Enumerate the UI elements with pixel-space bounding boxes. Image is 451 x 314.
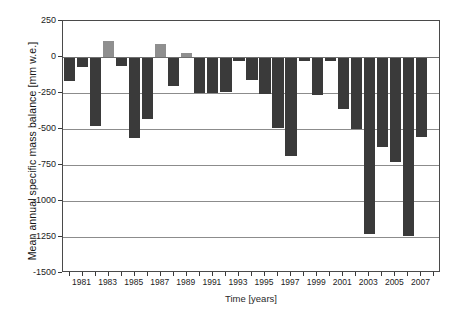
mass-balance-bar-chart: Mean annual specific mass balance [mm w.… [0, 0, 451, 314]
bar-2002 [351, 57, 362, 129]
x-axis-tick [121, 272, 122, 276]
y-gridline [63, 201, 439, 202]
x-axis-tick-label: 2007 [411, 277, 430, 287]
x-axis-tick [95, 272, 96, 276]
bar-1990 [194, 57, 205, 93]
zero-line [63, 57, 439, 58]
x-axis-tick [316, 272, 317, 276]
x-axis-tick [108, 272, 109, 276]
y-axis-tick [58, 272, 62, 273]
bar-1992 [220, 57, 231, 92]
x-axis-tick [355, 272, 356, 276]
y-axis-tick [58, 200, 62, 201]
x-axis-tick [329, 272, 330, 276]
x-axis-tick [160, 272, 161, 276]
bar-1985 [129, 57, 140, 138]
bar-1991 [207, 57, 218, 93]
x-axis-tick [134, 272, 135, 276]
y-axis-tick-label: -1000 [10, 195, 56, 205]
bar-1994 [246, 57, 257, 80]
bar-1999 [312, 57, 323, 95]
bar-2007 [416, 57, 427, 137]
x-axis-tick-label: 2005 [385, 277, 404, 287]
y-axis-tick-label: -500 [10, 123, 56, 133]
bar-1987 [155, 44, 166, 57]
bar-1988 [168, 57, 179, 86]
x-axis-tick [420, 272, 421, 276]
y-axis-tick-label: -1500 [10, 267, 56, 277]
x-axis-tick-label: 2001 [333, 277, 352, 287]
bar-1996 [272, 57, 283, 128]
x-axis-tick [199, 272, 200, 276]
y-axis-tick [58, 20, 62, 21]
x-axis-title: Time [years] [62, 293, 440, 304]
bar-1984 [116, 57, 127, 66]
y-axis-tick [58, 56, 62, 57]
bar-2003 [364, 57, 375, 234]
x-axis-tick-label: 1991 [202, 277, 221, 287]
x-axis-tick [225, 272, 226, 276]
x-axis-tick [238, 272, 239, 276]
bar-2001 [338, 57, 349, 109]
x-axis-tick [368, 272, 369, 276]
x-axis-tick [433, 272, 434, 276]
x-axis-tick-label: 1981 [72, 277, 91, 287]
y-axis-tick [58, 236, 62, 237]
y-axis-tick-label: -750 [10, 159, 56, 169]
x-axis-tick-label: 1993 [228, 277, 247, 287]
y-axis-tick [58, 164, 62, 165]
x-axis-tick-label: 1989 [176, 277, 195, 287]
y-gridline [63, 237, 439, 238]
x-axis-tick-label: 1997 [281, 277, 300, 287]
x-axis-tick [147, 272, 148, 276]
x-axis-tick [381, 272, 382, 276]
bar-1995 [259, 57, 270, 94]
x-axis-tick [69, 272, 70, 276]
x-axis-tick [212, 272, 213, 276]
x-axis-tick [394, 272, 395, 276]
bar-1982 [90, 57, 101, 126]
bar-1983 [103, 41, 114, 57]
bar-1981 [77, 57, 88, 67]
x-axis-tick [407, 272, 408, 276]
y-axis-tick-label: 250 [10, 15, 56, 25]
x-axis-tick-label: 2003 [359, 277, 378, 287]
y-axis-tick-label: -1250 [10, 231, 56, 241]
x-axis-tick [186, 272, 187, 276]
y-axis-tick-label: 0 [10, 51, 56, 61]
y-axis-tick-label: -250 [10, 87, 56, 97]
x-axis-tick [290, 272, 291, 276]
x-axis-tick [303, 272, 304, 276]
x-axis-tick-label: 1995 [255, 277, 274, 287]
x-axis-tick [251, 272, 252, 276]
y-axis-tick [58, 92, 62, 93]
x-axis-tick [342, 272, 343, 276]
y-gridline [63, 165, 439, 166]
bar-2006 [403, 57, 414, 236]
bar-2004 [377, 57, 388, 147]
bar-1980 [64, 57, 75, 81]
x-axis-tick [82, 272, 83, 276]
y-axis-tick [58, 128, 62, 129]
bar-1997 [285, 57, 296, 156]
x-axis-tick [173, 272, 174, 276]
x-axis-tick-label: 1999 [307, 277, 326, 287]
bar-1986 [142, 57, 153, 119]
x-axis-tick-label: 1987 [150, 277, 169, 287]
x-axis-tick-label: 1983 [98, 277, 117, 287]
plot-area [62, 20, 440, 272]
x-axis-tick [264, 272, 265, 276]
x-axis-tick [277, 272, 278, 276]
x-axis-tick-label: 1985 [124, 277, 143, 287]
bar-2005 [390, 57, 401, 162]
